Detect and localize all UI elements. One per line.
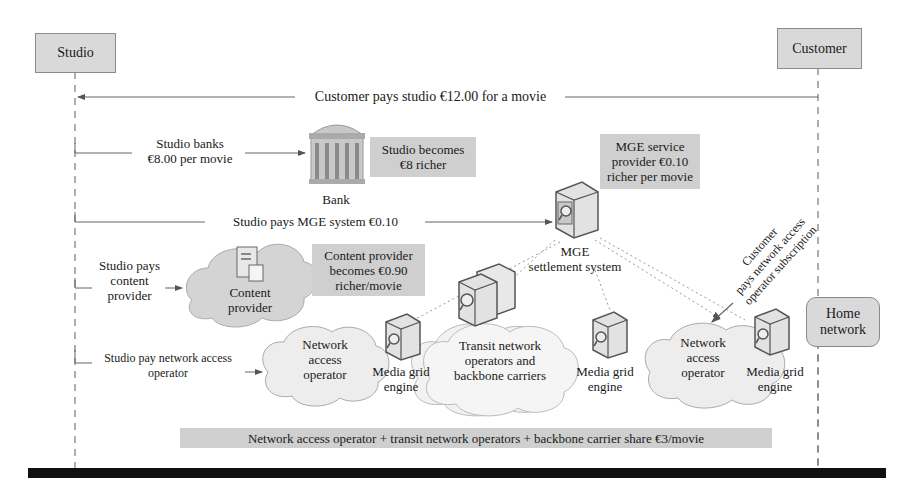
media-grid-engine-label-1: Media grid engine (366, 364, 436, 394)
customer-actor-box: Customer (777, 28, 862, 69)
nao-left-label: Network access operator (290, 337, 360, 382)
customer-label: Customer (792, 41, 846, 57)
media-grid-engine-icon (383, 312, 423, 362)
bottom-rule (28, 468, 886, 478)
media-grid-engine-icon (752, 307, 792, 357)
studio-pays-nao-message: Studio pay network access operator (88, 351, 248, 381)
studio-label: Studio (57, 45, 94, 61)
studio-banks-message: Studio banks €8.00 per movie (135, 136, 245, 166)
mge-settlement-label: MGE settlement system (515, 244, 635, 274)
studio-pays-mge-message: Studio pays MGE system €0.10 (208, 214, 423, 229)
content-provider-label: Content provider (215, 285, 285, 315)
home-network-box: Home network (806, 297, 880, 347)
transit-label: Transit network operators and backbone c… (440, 338, 560, 383)
studio-actor-box: Studio (35, 33, 116, 73)
bank-label: Bank (306, 192, 366, 207)
mge-settlement-server-icon (552, 178, 602, 240)
mge-richer-callout: MGE service provider €0.10 richer per mo… (600, 134, 700, 189)
media-grid-engine-icon (590, 310, 630, 360)
studio-pays-content-provider-message: Studio pays content provider (92, 258, 167, 303)
nao-right-label: Network access operator (668, 335, 738, 380)
content-provider-richer-callout: Content provider becomes €0.90 richer/mo… (312, 244, 425, 296)
revenue-share-callout: Network access operator + transit networ… (180, 428, 772, 448)
customer-pays-message: Customer pays studio €12.00 for a movie (298, 89, 563, 104)
transit-servers-icon (455, 262, 525, 330)
bank-building-icon (305, 113, 369, 189)
media-grid-engine-label-2: Media grid engine (570, 364, 640, 394)
content-server-icon (233, 243, 267, 285)
media-grid-engine-label-3: Media grid engine (737, 364, 813, 394)
studio-richer-callout: Studio becomes €8 richer (370, 137, 476, 177)
